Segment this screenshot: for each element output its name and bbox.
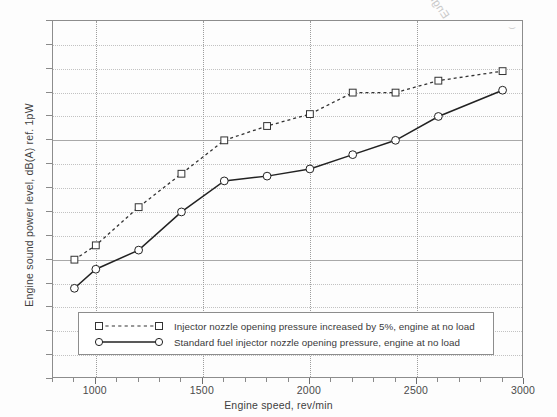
square-marker-sample-icon	[93, 319, 165, 333]
square-marker	[221, 137, 228, 144]
square-marker	[71, 256, 78, 263]
x-tick-mark	[116, 378, 117, 382]
square-marker	[178, 170, 185, 177]
x-tick-mark	[480, 378, 481, 382]
x-tick-mark	[73, 378, 74, 382]
x-tick-label: 2000	[286, 384, 332, 396]
x-tick-mark	[138, 378, 139, 382]
x-tick-mark	[223, 378, 224, 382]
circle-marker	[349, 151, 357, 159]
x-axis-title: Engine speed, rev/min	[0, 399, 557, 411]
x-tick-label: 1500	[179, 384, 225, 396]
x-tick-label: 3000	[500, 384, 546, 396]
x-tick-mark	[180, 378, 181, 382]
x-tick-mark	[52, 378, 53, 382]
square-marker	[135, 204, 142, 211]
legend-entry-dashed: Injector nozzle opening pressure increas…	[93, 318, 493, 334]
x-tick-mark	[395, 378, 396, 382]
x-tick-mark	[202, 378, 203, 384]
x-tick-label: 2500	[393, 384, 439, 396]
series-1	[71, 68, 506, 263]
circle-marker-sample-icon	[93, 335, 165, 349]
y-axis-title: Engine sound power level, dB(A) ref. 1pW	[23, 25, 35, 385]
circle-marker	[306, 165, 314, 173]
square-marker	[307, 111, 314, 118]
circle-marker	[220, 177, 228, 185]
square-marker	[92, 242, 99, 249]
x-tick-mark	[309, 378, 310, 384]
x-tick-mark	[437, 378, 438, 382]
chart-legend: Injector nozzle opening pressure increas…	[78, 312, 494, 355]
x-tick-mark	[266, 378, 267, 382]
x-tick-mark	[95, 378, 96, 384]
x-tick-mark	[330, 378, 331, 382]
legend-label-dashed: Injector nozzle opening pressure increas…	[174, 321, 475, 332]
x-tick-mark	[245, 378, 246, 382]
square-marker	[264, 123, 271, 130]
x-tick-mark	[352, 378, 353, 382]
circle-marker	[263, 172, 271, 180]
series-line	[74, 71, 502, 260]
x-tick-mark	[373, 378, 374, 382]
circle-marker	[135, 246, 143, 254]
x-tick-mark	[459, 378, 460, 382]
x-tick-mark	[523, 378, 524, 384]
x-tick-mark	[288, 378, 289, 382]
legend-label-solid: Standard fuel injector nozzle opening pr…	[174, 337, 460, 348]
circle-marker	[499, 86, 507, 94]
square-marker	[435, 77, 442, 84]
square-marker	[499, 68, 506, 75]
x-tick-mark	[159, 378, 160, 382]
series-2	[71, 86, 507, 292]
circle-marker	[92, 265, 100, 273]
x-tick-mark	[502, 378, 503, 382]
legend-entry-solid: Standard fuel injector nozzle opening pr…	[93, 334, 493, 350]
circle-marker	[178, 208, 186, 216]
circle-marker	[71, 284, 79, 292]
circle-marker	[434, 113, 442, 121]
chart-figure: Engine noise 203 ⌣ Engine sound power le…	[0, 0, 557, 417]
page-bleedthrough-text: Engine noise 203	[390, 0, 452, 21]
square-marker	[349, 89, 356, 96]
circle-marker	[392, 136, 400, 144]
square-marker	[392, 89, 399, 96]
x-tick-mark	[416, 378, 417, 384]
x-tick-label: 1000	[72, 384, 118, 396]
